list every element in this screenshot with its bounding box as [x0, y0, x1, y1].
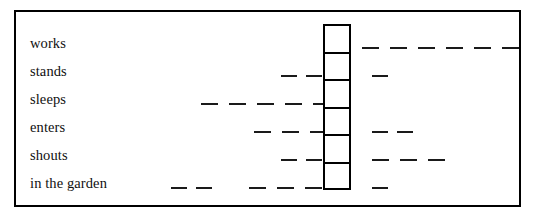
figure-root: worksstandssleepsentersshoutsin the gard… [0, 0, 538, 221]
diagram-row: enters [16, 106, 523, 134]
diagram-row: in the garden [16, 162, 523, 190]
row-label-stands: stands [30, 64, 67, 79]
dashed-connector-left [171, 187, 213, 189]
slot-cell[interactable] [325, 26, 349, 54]
slot-cell[interactable] [325, 109, 349, 137]
dashed-connector-left [201, 103, 326, 105]
diagram-row: works [16, 22, 523, 50]
slot-cell[interactable] [325, 81, 349, 109]
diagram-row: shouts [16, 134, 523, 162]
row-label-enters: enters [30, 120, 65, 135]
row-label-in-the-garden: in the garden [30, 176, 107, 191]
slot-cell[interactable] [325, 164, 349, 192]
dashed-connector-right [362, 47, 529, 49]
dashed-connector-left [281, 159, 326, 161]
dashed-connector-left [281, 75, 326, 77]
row-label-works: works [30, 36, 66, 51]
dashed-connector-right [372, 131, 420, 133]
dashed-connector-right [372, 159, 447, 161]
diagram-row: stands [16, 50, 523, 78]
dashed-connector-right [372, 187, 391, 189]
row-label-sleeps: sleeps [30, 92, 66, 107]
dashed-connector-left [254, 131, 326, 133]
slot-cell[interactable] [325, 136, 349, 164]
dashed-connector-right [372, 75, 391, 77]
dashed-connector-left [249, 187, 326, 189]
slot-cell[interactable] [325, 54, 349, 82]
empty-slot-column[interactable] [323, 24, 351, 190]
diagram-frame: worksstandssleepsentersshoutsin the gard… [14, 10, 521, 207]
diagram-row: sleeps [16, 78, 523, 106]
row-label-shouts: shouts [30, 148, 68, 163]
